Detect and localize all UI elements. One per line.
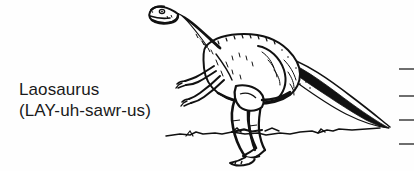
head xyxy=(149,6,178,23)
margin-rule-1 xyxy=(399,68,414,70)
margin-rule-3 xyxy=(399,119,414,121)
nostril xyxy=(152,11,153,12)
laosaurus-illustration xyxy=(0,0,414,171)
ground-line xyxy=(166,128,380,136)
margin-rule-4 xyxy=(399,143,414,145)
illustration-page: Laosaurus (LAY-uh-sawr-us) xyxy=(0,0,414,171)
margin-rule-2 xyxy=(399,95,414,97)
